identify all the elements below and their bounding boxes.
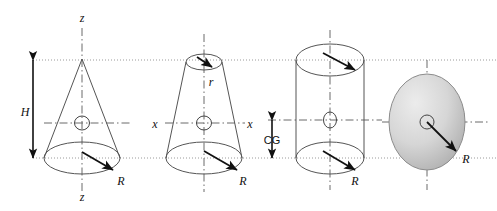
diagram-canvas: z z H R r x x R [0, 0, 497, 211]
cone-axis-bottom-label: z [79, 190, 85, 204]
frustum-left-slant [166, 62, 186, 158]
frustum-top-radius-label: r [209, 75, 214, 89]
frustum-radius-label: R [238, 174, 247, 188]
figure-disk: R [382, 60, 490, 190]
frustum-right-slant [222, 62, 242, 158]
cone-radius-label: R [116, 174, 125, 188]
cylinder-radius-label: R [350, 174, 359, 188]
figure-cone: z z H R [20, 11, 132, 204]
frustum-radius-arrow [204, 151, 237, 170]
disk-radius-label: R [461, 152, 470, 166]
cone-axis-top-label: z [79, 11, 85, 25]
figure-cylinder: CG R [264, 30, 382, 190]
cone-height-label: H [20, 105, 31, 119]
cylinder-bottom-radius-arrow [323, 151, 355, 170]
solids-diagram: z z H R r x x R [0, 0, 497, 211]
cylinder-top-radius-arrow [323, 53, 355, 70]
figure-truncated-cone: r x x R [151, 34, 253, 192]
frustum-axis-left-label: x [151, 117, 158, 131]
cone-left-slant [44, 59, 82, 158]
cylinder-cg-label: CG [264, 134, 281, 146]
cone-right-slant [82, 59, 120, 158]
frustum-axis-right-label: x [246, 117, 253, 131]
cone-radius-arrow [82, 152, 113, 170]
